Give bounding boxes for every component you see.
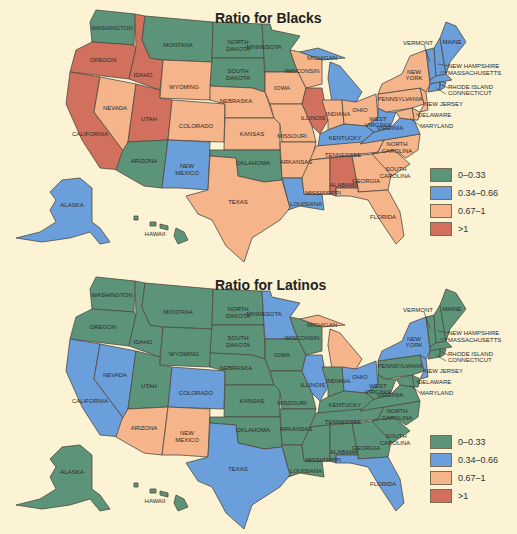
state-hawaii <box>134 216 188 244</box>
label-west-virginia: VIRGINIA <box>365 389 391 395</box>
label-south-carolina-2: CAROLINA <box>380 173 411 179</box>
label-new-jersey: NEW JERSEY <box>424 101 463 107</box>
state-new-york <box>378 317 430 361</box>
state-wyoming <box>160 60 212 100</box>
label-maryland: MARYLAND <box>420 390 454 396</box>
label-illinois: ILLINOIS <box>301 382 326 388</box>
legend-label: >1 <box>458 491 468 501</box>
legend-item: 0.34–0.66 <box>430 184 498 202</box>
legend-item: >1 <box>430 220 498 238</box>
label-mississippi: MISSISSIPPI <box>305 190 341 196</box>
legend-swatch <box>430 435 452 449</box>
label-ohio: OHIO <box>352 107 368 113</box>
label-indiana: INDIANA <box>326 378 350 384</box>
state-montana <box>142 283 213 329</box>
label-arizona: ARIZONA <box>131 425 158 431</box>
label-idaho: IDAHO <box>133 339 152 345</box>
label-oklahoma: OKLAHOMA <box>236 160 270 166</box>
legend-swatch <box>430 204 452 218</box>
label-minnesota: MINNESOTA <box>246 311 281 317</box>
legend-label: >1 <box>458 224 468 234</box>
label-alaska: ALASKA <box>60 469 83 475</box>
label-utah: UTAH <box>141 383 157 389</box>
label-new-hampshire: NEW HAMPSHIRE <box>448 63 499 69</box>
label-iowa: IOWA <box>274 85 290 91</box>
label-oregon: OREGON <box>90 57 117 63</box>
state-colorado <box>168 367 225 409</box>
label-south: SOUTH <box>228 68 249 74</box>
state-hawaii <box>134 483 188 511</box>
label-delaware: DELAWARE <box>418 379 451 385</box>
label-connecticut: CONNECTICUT <box>448 357 492 363</box>
label-maine: MAINE <box>442 306 461 312</box>
label-massachusetts: MASSACHUSETTS <box>448 70 501 76</box>
label-colorado: COLORADO <box>179 390 214 396</box>
legend-swatch <box>430 489 452 503</box>
map-panel-blacks: WASHINGTON OREGON CALIFORNIA IDAHO NEVAD… <box>0 0 517 267</box>
legend: 0–0.33 0.34–0.66 0.67–1 >1 <box>430 166 498 238</box>
legend-label: 0–0.33 <box>458 437 486 447</box>
legend-label: 0.34–0.66 <box>458 455 498 465</box>
label-vermont: VERMONT <box>403 307 433 313</box>
label-georgia: GEORGIA <box>352 445 380 451</box>
label-mexico: MEXICO <box>175 437 199 443</box>
label-texas: TEXAS <box>228 466 248 472</box>
label-kentucky: KENTUCKY <box>329 135 362 141</box>
label-minnesota: MINNESOTA <box>246 44 281 50</box>
label-new: NEW <box>180 163 194 169</box>
label-colorado: COLORADO <box>179 123 214 129</box>
label-montana: MONTANA <box>163 309 193 315</box>
state-montana <box>142 16 213 62</box>
label-hawaii: HAWAII <box>145 498 166 504</box>
legend-label: 0.67–1 <box>458 473 486 483</box>
legend-item: 0–0.33 <box>430 166 498 184</box>
label-wisconsin: WISCONSIN <box>285 68 320 74</box>
label-kentucky: KENTUCKY <box>329 402 362 408</box>
label-south-carolina-1: SOUTH <box>386 433 407 439</box>
legend-item: 0.67–1 <box>430 469 498 487</box>
label-mississippi: MISSISSIPPI <box>305 457 341 463</box>
legend-swatch <box>430 168 452 182</box>
label-new-jersey: NEW JERSEY <box>424 368 463 374</box>
legend-swatch <box>430 453 452 467</box>
legend-label: 0.67–1 <box>458 206 486 216</box>
label-west-virginia: VIRGINIA <box>365 122 391 128</box>
label-washington: WASHINGTON <box>91 25 132 31</box>
label-california: CALIFORNIA <box>72 398 108 404</box>
legend-item: 0.67–1 <box>430 202 498 220</box>
state-wyoming <box>160 327 212 367</box>
label-utah: UTAH <box>141 116 157 122</box>
label-new: NEW <box>180 430 194 436</box>
map-title: Ratio for Latinos <box>215 277 326 293</box>
legend-label: 0–0.33 <box>458 170 486 180</box>
legend: 0–0.33 0.34–0.66 0.67–1 >1 <box>430 433 498 505</box>
label-nebraska: NEBRASKA <box>220 98 253 104</box>
legend-item: 0.34–0.66 <box>430 451 498 469</box>
state-colorado <box>168 100 225 142</box>
label-arkansas: ARKANSAS <box>280 426 313 432</box>
label-hawaii: HAWAII <box>145 231 166 237</box>
map-panel-latinos: WASHINGTON OREGON CALIFORNIA IDAHO NEVAD… <box>0 267 517 534</box>
label-wyoming: WYOMING <box>169 84 199 90</box>
label-maine: MAINE <box>442 39 461 45</box>
label-vermont: VERMONT <box>403 40 433 46</box>
label-north-carolina-2: CAROLINA <box>382 148 413 154</box>
label-delaware: DELAWARE <box>418 112 451 118</box>
legend-item: >1 <box>430 487 498 505</box>
label-kansas: KANSAS <box>240 131 264 137</box>
label-north-carolina-1: NORTH <box>386 141 407 147</box>
label-nevada: NEVADA <box>103 372 127 378</box>
label-louisiana: LOUISIANA <box>290 468 322 474</box>
state-new-york <box>378 50 430 94</box>
label-north-carolina-1: NORTH <box>386 408 407 414</box>
map-title: Ratio for Blacks <box>215 10 322 26</box>
label-mexico: MEXICO <box>175 170 199 176</box>
label-wyoming: WYOMING <box>169 351 199 357</box>
label-kansas: KANSAS <box>240 398 264 404</box>
label-maryland: MARYLAND <box>420 123 454 129</box>
label-california: CALIFORNIA <box>72 131 108 137</box>
label-michigan: MICHIGAN <box>307 322 337 328</box>
legend-swatch <box>430 222 452 236</box>
label-oklahoma: OKLAHOMA <box>236 427 270 433</box>
legend-item: 0–0.33 <box>430 433 498 451</box>
